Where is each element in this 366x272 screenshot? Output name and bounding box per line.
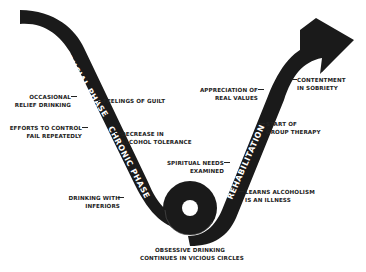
label-real-values: APPRECIATION OF REAL VALUES — [200, 86, 258, 102]
tick-drinking-inferiors — [118, 197, 124, 198]
label-occasional-relief: OCCASIONAL RELIEF DRINKING — [15, 93, 71, 109]
label-drinking-inferiors: DRINKING WITH INFERIORS — [69, 194, 120, 210]
label-spiritual-needs: SPIRITUAL NEEDS EXAMINED — [167, 159, 224, 175]
label-group-therapy: START OF GROUP THERAPY — [266, 120, 321, 136]
tick-group-therapy — [259, 123, 265, 124]
label-efforts-control: EFFORTS TO CONTROL FAIL REPEATEDLY — [10, 124, 82, 140]
arrowhead — [300, 18, 354, 74]
label-decrease-tolerance: DECREASE IN ALCOHOL TOLERANCE — [121, 130, 192, 146]
tick-spiritual-needs — [224, 162, 230, 163]
label-learns-illness: LEARNS ALCOHOLISM IS AN ILLNESS — [245, 188, 315, 204]
tick-decrease-tolerance — [115, 133, 121, 134]
label-contentment: CONTENTMENT IN SOBRIETY — [297, 76, 346, 92]
tick-feelings-guilt — [98, 101, 103, 102]
label-obsessive-drinking: OBSESSIVE DRINKING CONTINUES IN VICIOUS … — [140, 246, 240, 262]
label-feelings-guilt: FEELINGS OF GUILT — [103, 97, 165, 105]
vicious-circle-hole — [182, 200, 198, 216]
tick-learns-illness — [238, 191, 244, 192]
tick-efforts-control — [82, 127, 88, 128]
tick-real-values — [258, 89, 264, 90]
tick-occasional-relief — [71, 96, 77, 97]
tick-contentment — [291, 79, 297, 80]
